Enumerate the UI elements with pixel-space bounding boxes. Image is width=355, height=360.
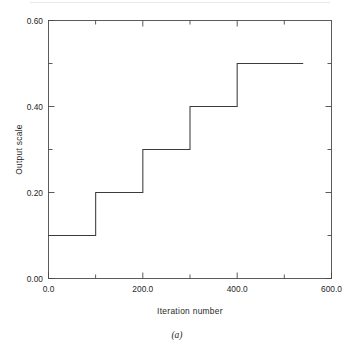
figure-caption: (a) [171, 330, 182, 341]
scan-artifact-line [30, 2, 330, 3]
step-chart: 0.60 0.40 0.20 0.00 0.0 200.0 400.0 600.… [0, 0, 355, 360]
y-tick-label-0: 0.60 [27, 16, 44, 26]
x-tick-label-1: 200.0 [132, 284, 153, 294]
y-tick-label-3: 0.00 [27, 274, 44, 284]
x-axis-top-ticks [96, 21, 285, 27]
figure-panel: 0.60 0.40 0.20 0.00 0.0 200.0 400.0 600.… [0, 0, 355, 360]
y-axis-title: Output scale [14, 124, 24, 175]
data-series-output-scale [49, 64, 304, 236]
x-tick-label-3: 600.0 [321, 284, 342, 294]
y-tick-label-1: 0.40 [27, 102, 44, 112]
x-axis-title: Iteration number [157, 306, 223, 316]
x-tick-label-0: 0.0 [43, 284, 55, 294]
y-axis-minor-ticks [49, 64, 53, 236]
y-axis-right-ticks [326, 64, 332, 279]
x-axis-minor-ticks [96, 275, 285, 279]
y-tick-label-2: 0.20 [27, 188, 44, 198]
x-tick-label-2: 400.0 [227, 284, 248, 294]
